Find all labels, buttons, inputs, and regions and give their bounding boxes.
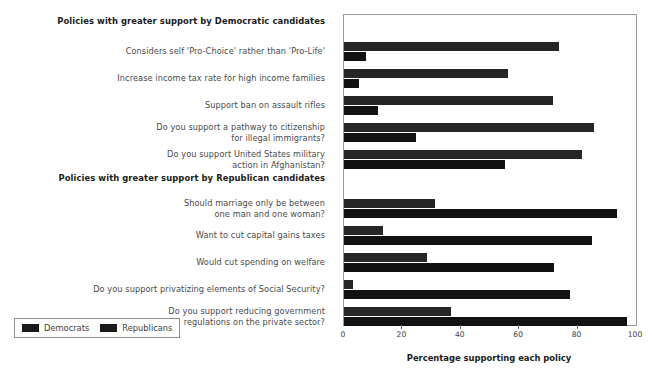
row-label: Considers self 'Pro-Choice' rather than …	[5, 46, 325, 57]
bar-democrats	[344, 307, 451, 316]
legend-swatch-democrats	[22, 324, 39, 332]
legend-label-republicans: Republicans	[122, 323, 172, 333]
row-label: Do you support privatizing elements of S…	[5, 284, 325, 295]
bar-republicans	[344, 209, 617, 218]
bar-democrats	[344, 150, 582, 159]
x-axis: 020406080100	[343, 325, 635, 355]
bar-republicans	[344, 263, 554, 272]
bar-republicans	[344, 290, 570, 299]
category-label-column: Policies with greater support by Democra…	[0, 14, 333, 324]
bar-republicans	[344, 160, 505, 169]
bar-republicans	[344, 133, 416, 142]
cropped-title-remnant	[0, 0, 653, 5]
bar-republicans	[344, 106, 378, 115]
x-tick-mark	[577, 325, 578, 329]
bars-container	[344, 15, 636, 325]
x-tick-mark	[518, 325, 519, 329]
x-axis-title: Percentage supporting each policy	[343, 353, 635, 363]
group-header-republican: Policies with greater support by Republi…	[5, 173, 325, 184]
x-tick-label: 40	[455, 330, 465, 339]
bar-democrats	[344, 280, 353, 289]
group-header-democratic: Policies with greater support by Democra…	[5, 16, 325, 27]
legend-item-democrats: Democrats	[22, 323, 89, 333]
bar-democrats	[344, 42, 559, 51]
x-tick-label: 0	[341, 330, 346, 339]
row-label: Support ban on assault rifles	[5, 100, 325, 111]
bar-democrats	[344, 123, 594, 132]
bar-democrats	[344, 253, 427, 262]
x-tick-mark	[460, 325, 461, 329]
bar-republicans	[344, 236, 592, 245]
x-tick-label: 20	[397, 330, 407, 339]
x-tick-label: 100	[628, 330, 643, 339]
row-label: Increase income tax rate for high income…	[5, 73, 325, 84]
bar-democrats	[344, 226, 383, 235]
legend-label-democrats: Democrats	[44, 323, 89, 333]
row-label: Would cut spending on welfare	[5, 257, 325, 268]
bar-democrats	[344, 69, 508, 78]
bar-republicans	[344, 79, 359, 88]
plot-area	[343, 14, 637, 326]
row-label: Should marriage only be betweenone man a…	[5, 198, 325, 219]
legend-item-republicans: Republicans	[100, 323, 172, 333]
row-label: Do you support United States militaryact…	[5, 149, 325, 170]
x-tick-label: 80	[572, 330, 582, 339]
bar-republicans	[344, 52, 366, 61]
bar-democrats	[344, 199, 435, 208]
x-tick-mark	[401, 325, 402, 329]
bar-chart-figure: Policies with greater support by Democra…	[0, 0, 653, 382]
row-label: Do you support a pathway to citizenshipf…	[5, 122, 325, 143]
chart-legend: Democrats Republicans	[14, 318, 180, 338]
x-tick-label: 60	[513, 330, 523, 339]
row-label: Want to cut capital gains taxes	[5, 230, 325, 241]
bar-democrats	[344, 96, 553, 105]
legend-swatch-republicans	[100, 324, 117, 332]
